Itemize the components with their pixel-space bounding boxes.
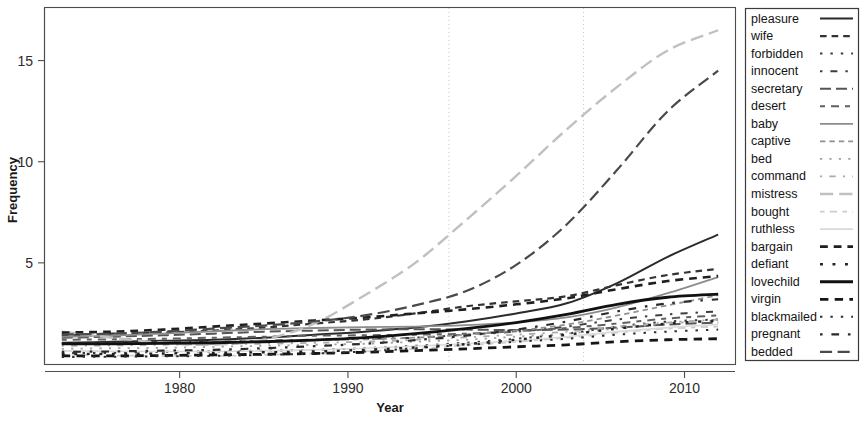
legend-label-mistress: mistress — [751, 187, 798, 201]
y-tick-label-15: 15 — [17, 53, 33, 69]
reference-lines — [449, 8, 584, 364]
chart-legend: pleasurewifeforbiddeninnocentsecretaryde… — [746, 9, 859, 361]
x-axis-ticks: 1980199020002010 — [164, 372, 700, 397]
legend-label-blackmailed: blackmailed — [751, 310, 817, 324]
series-lines — [62, 30, 718, 357]
series-line-baby — [62, 277, 718, 337]
legend-label-virgin: virgin — [751, 292, 781, 306]
legend-label-captive: captive — [751, 134, 791, 148]
y-axis: 51015 — [17, 8, 44, 364]
x-tick-label-2010: 2010 — [669, 380, 700, 396]
legend-label-desert: desert — [751, 99, 786, 113]
legend-label-command: command — [751, 169, 806, 183]
legend-label-innocent: innocent — [751, 64, 799, 78]
legend-label-defiant: defiant — [751, 257, 789, 271]
x-tick-label-1990: 1990 — [332, 380, 363, 396]
line-chart-figure: 51015 1980199020002010 Frequency Year pl… — [0, 0, 867, 421]
chart-canvas: 51015 1980199020002010 Frequency Year pl… — [0, 0, 867, 421]
legend-label-lovechild: lovechild — [751, 275, 800, 289]
series-line-bedded — [62, 71, 718, 335]
y-axis-title: Frequency — [5, 156, 20, 223]
legend-label-bed: bed — [751, 152, 772, 166]
plot-frame — [45, 8, 736, 365]
legend-label-secretary: secretary — [751, 82, 803, 96]
legend-label-wife: wife — [750, 29, 773, 43]
y-tick-label-5: 5 — [25, 255, 33, 271]
legend-label-bedded: bedded — [751, 345, 793, 359]
x-axis: 1980199020002010 — [45, 372, 735, 397]
x-tick-label-1980: 1980 — [164, 380, 195, 396]
legend-box — [746, 9, 859, 361]
x-axis-title: Year — [376, 400, 403, 415]
y-axis-ticks: 51015 — [17, 53, 44, 271]
legend-label-ruthless: ruthless — [751, 222, 795, 236]
legend-label-pregnant: pregnant — [751, 327, 801, 341]
series-line-mistress — [62, 30, 718, 345]
legend-label-baby: baby — [751, 117, 779, 131]
x-tick-label-2000: 2000 — [501, 380, 532, 396]
legend-label-forbidden: forbidden — [751, 47, 803, 61]
legend-label-pleasure: pleasure — [751, 12, 799, 26]
legend-label-bought: bought — [751, 205, 790, 219]
legend-label-bargain: bargain — [751, 240, 793, 254]
series-line-wife — [62, 269, 718, 336]
